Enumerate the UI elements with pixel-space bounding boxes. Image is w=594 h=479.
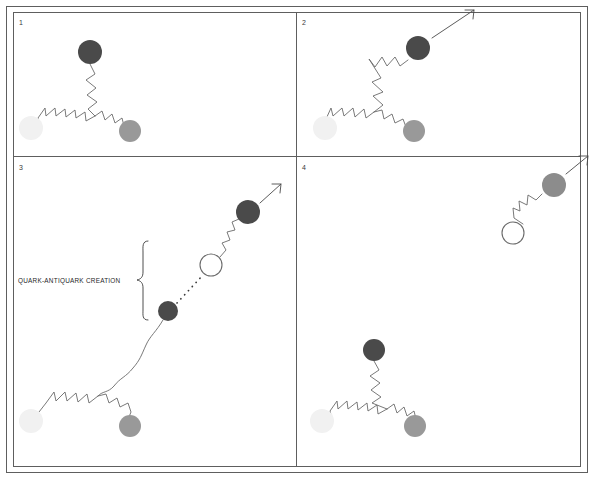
panel-4: 4 xyxy=(302,156,588,437)
quark-light-panel-3 xyxy=(19,409,43,433)
quark-medium-panel-2 xyxy=(403,120,425,142)
panel-3: 3 QUARK-ANTIQUARK CREATION xyxy=(18,164,281,437)
escaping-quark-panel-3 xyxy=(236,200,260,224)
string-break-dotted-line xyxy=(177,275,203,303)
gluon-string-left-panel-4 xyxy=(330,401,387,419)
physics-diagram-figure: 1 2 xyxy=(0,0,594,479)
gluon-string-top-panel-4 xyxy=(370,361,387,409)
quark-medium-panel-4 xyxy=(404,415,426,437)
creation-caption: QUARK-ANTIQUARK CREATION xyxy=(18,277,121,285)
gluon-string-right-panel-3 xyxy=(98,394,131,417)
panel-4-number: 4 xyxy=(302,164,306,171)
quark-light-panel-1 xyxy=(19,116,43,140)
gluon-string-meson-panel-4 xyxy=(513,194,542,224)
gluon-string-meson-panel-3 xyxy=(220,219,239,257)
meson-quark-panel-4 xyxy=(542,173,566,197)
meson-antiquark-panel-4 xyxy=(502,222,524,244)
quark-dark-panel-4 xyxy=(363,339,385,361)
new-antiquark-panel-3 xyxy=(200,254,222,276)
panel-3-number: 3 xyxy=(19,164,23,171)
motion-arrow-panel-2 xyxy=(432,10,474,38)
gluon-string-left xyxy=(38,108,95,126)
motion-arrow-panel-4 xyxy=(566,156,588,174)
motion-arrow-panel-3 xyxy=(260,184,281,203)
diagram-canvas: 1 2 xyxy=(0,0,594,479)
new-quark-panel-3 xyxy=(158,301,178,321)
quark-light-panel-2 xyxy=(313,116,337,140)
quark-dark-panel-2 xyxy=(406,36,430,60)
creation-brace xyxy=(137,241,148,320)
gluon-string-top xyxy=(86,64,97,116)
quark-medium-panel-1 xyxy=(119,120,141,142)
gluon-string-left-panel-3 xyxy=(39,392,98,412)
panel-2-number: 2 xyxy=(302,19,306,26)
panel-1-number: 1 xyxy=(19,19,23,26)
gluon-string-stretched-panel-3 xyxy=(98,320,163,396)
quark-light-panel-4 xyxy=(310,409,334,433)
gluon-string-stretched-panel-2 xyxy=(369,57,408,112)
gluon-string-right-panel-2 xyxy=(374,110,406,131)
panel-1: 1 xyxy=(19,19,141,142)
quark-medium-panel-3 xyxy=(119,415,141,437)
quark-dark-panel-1 xyxy=(78,40,102,64)
panel-2: 2 xyxy=(302,10,474,142)
